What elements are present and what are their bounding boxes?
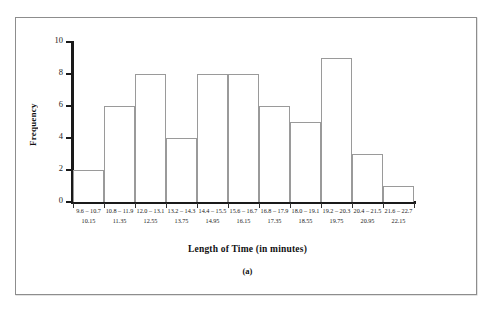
x-axis-label-range: 21.6 – 22.7 — [377, 206, 420, 216]
histogram-bar — [197, 74, 228, 202]
histogram-bar — [104, 106, 135, 202]
y-axis-tick: 0 — [66, 201, 73, 203]
y-axis-tick: 2 — [66, 169, 73, 171]
histogram-bar — [321, 58, 352, 202]
y-axis-tick-label: 2 — [59, 163, 63, 173]
y-axis-tick-label: 6 — [59, 99, 63, 109]
plot-bars — [73, 42, 414, 202]
y-axis-tick: 6 — [66, 105, 73, 107]
histogram-chart: Frequency 0246810 9.6 – 10.710.1510.8 – … — [0, 0, 495, 310]
y-axis-title: Frequency — [25, 80, 41, 170]
x-axis-title: Length of Time (in minutes) — [0, 244, 495, 254]
histogram-bar — [73, 170, 104, 202]
y-axis-tick-label: 0 — [59, 195, 63, 205]
y-axis-tick: 10 — [66, 41, 73, 43]
histogram-bar — [228, 74, 259, 202]
y-axis-tick: 4 — [66, 137, 73, 139]
y-axis-tick: 8 — [66, 73, 73, 75]
x-axis-label-midpoint: 22.15 — [377, 216, 420, 226]
histogram-bar — [259, 106, 290, 202]
histogram-bar — [352, 154, 383, 202]
y-axis-tick-label: 4 — [59, 131, 63, 141]
y-axis-tick-label: 8 — [59, 67, 63, 77]
histogram-bar — [135, 74, 166, 202]
histogram-bar — [383, 186, 414, 202]
histogram-bar — [166, 138, 197, 202]
histogram-bar — [290, 122, 321, 202]
figure-caption: (a) — [0, 266, 495, 276]
y-axis-tick-label: 10 — [55, 35, 64, 45]
x-axis-label: 21.6 – 22.722.15 — [377, 206, 420, 225]
